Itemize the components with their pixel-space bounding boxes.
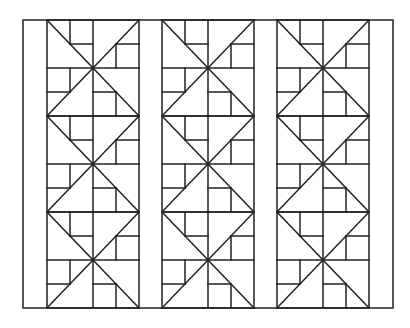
quilt-pattern-diagram <box>0 0 410 328</box>
